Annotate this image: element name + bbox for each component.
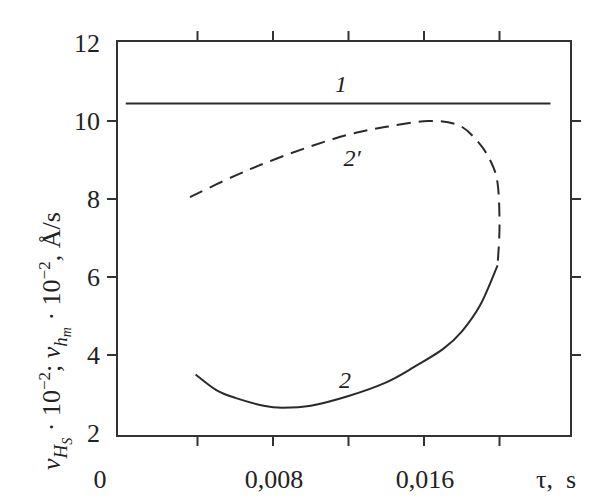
curve-label-2: 2 — [339, 367, 351, 393]
x-tick-label-0016: 0,016 — [396, 465, 455, 494]
y-tick-labels: 24681012 — [74, 29, 100, 448]
y-tick-label: 10 — [74, 107, 100, 136]
chart-canvas: 24681012 0 0,008 0,016 τ, s vHS · 10−2; … — [0, 0, 605, 504]
series-group — [126, 103, 551, 407]
y-tick-label: 8 — [87, 185, 100, 214]
y-tick-label: 2 — [87, 419, 100, 448]
curve-label-1: 1 — [335, 71, 347, 97]
y-axis-title: vHS · 10−2; vhm · 10−2, Å/s — [35, 212, 75, 470]
x-tick-label-0008: 0,008 — [245, 465, 304, 494]
y-tick-label: 4 — [87, 341, 100, 370]
curve-label-2prime: 2′ — [343, 145, 361, 171]
y-tick-label: 12 — [74, 29, 100, 58]
x-axis-title: τ, s — [536, 465, 576, 494]
y-tick-label: 6 — [87, 263, 100, 292]
series-2prime — [190, 121, 500, 265]
x-origin-label: 0 — [94, 465, 107, 494]
